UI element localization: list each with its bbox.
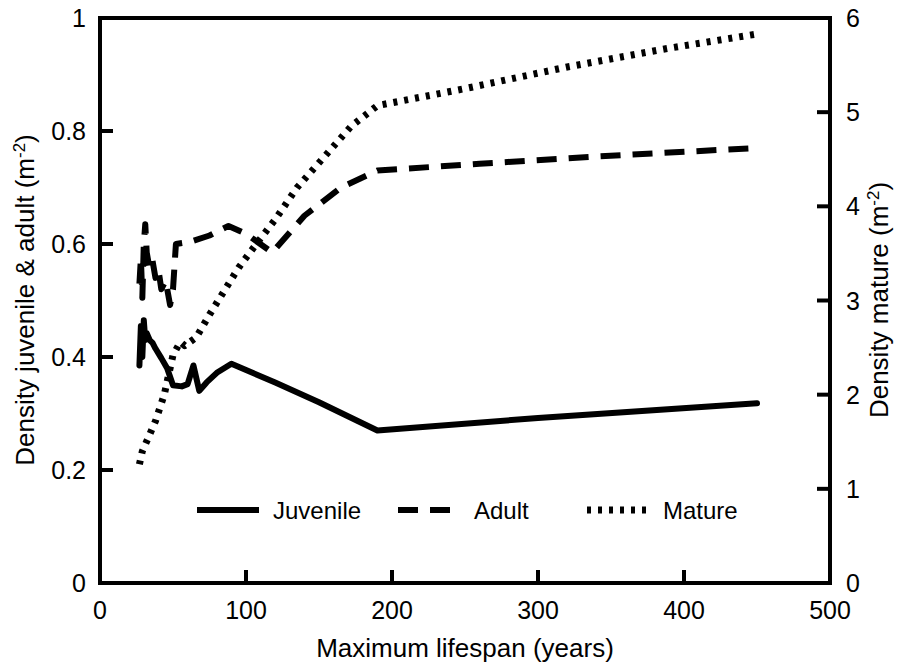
y2-tick-label: 6 (846, 4, 860, 32)
series-line-adult (139, 148, 757, 305)
y-axis-title-tail: ) (10, 134, 40, 143)
y2-axis-title-tail: ) (864, 182, 894, 191)
y2-tick-label: 3 (846, 287, 860, 315)
x-tick-label: 100 (225, 596, 267, 624)
chart-figure: 0100200300400500 00.20.40.60.81 0123456 … (0, 0, 906, 671)
x-axis-tick-labels: 0100200300400500 (93, 596, 851, 624)
y-tick-label: 0.4 (51, 343, 86, 371)
chart-legend: JuvenileAdultMature (197, 497, 738, 524)
y2-axis-title-base: Density mature (m (864, 206, 894, 418)
y-tick-label: 0.2 (51, 456, 86, 484)
y-axis-tick-labels: 00.20.40.60.81 (51, 4, 86, 597)
y-tick-label: 0.6 (51, 230, 86, 258)
legend-label-mature: Mature (663, 497, 738, 524)
y2-axis-tick-labels: 0123456 (846, 4, 860, 597)
y-axis-title-superscript: -2 (10, 143, 29, 158)
y2-axis-title: Density mature (m-2) (864, 182, 894, 418)
y-tick-label: 0.8 (51, 117, 86, 145)
y2-tick-label: 2 (846, 381, 860, 409)
svg-text:Density mature (m-2): Density mature (m-2) (864, 182, 894, 418)
legend-label-juvenile: Juvenile (273, 497, 361, 524)
x-tick-label: 500 (809, 596, 851, 624)
legend-label-adult: Adult (474, 497, 529, 524)
y-tick-label: 1 (72, 4, 86, 32)
y-tick-label: 0 (72, 569, 86, 597)
y2-axis-title-superscript: -2 (864, 191, 883, 206)
series-line-mature (139, 34, 757, 464)
y-axis-title-base: Density juvenile & adult (m (10, 158, 40, 466)
y2-tick-label: 0 (846, 569, 860, 597)
svg-text:Density juvenile & adult (m-2): Density juvenile & adult (m-2) (10, 134, 40, 466)
y2-tick-label: 5 (846, 98, 860, 126)
x-tick-label: 300 (517, 596, 559, 624)
y2-tick-label: 4 (846, 192, 860, 220)
series-line-juvenile (139, 320, 757, 430)
y2-tick-label: 1 (846, 475, 860, 503)
x-tick-label: 400 (663, 596, 705, 624)
y-axis-title: Density juvenile & adult (m-2) (10, 134, 40, 466)
x-axis-title: Maximum lifespan (years) (316, 633, 614, 663)
x-tick-label: 0 (93, 596, 107, 624)
density-vs-lifespan-chart: 0100200300400500 00.20.40.60.81 0123456 … (0, 0, 906, 671)
x-tick-label: 200 (371, 596, 413, 624)
data-series-layer (139, 34, 757, 464)
